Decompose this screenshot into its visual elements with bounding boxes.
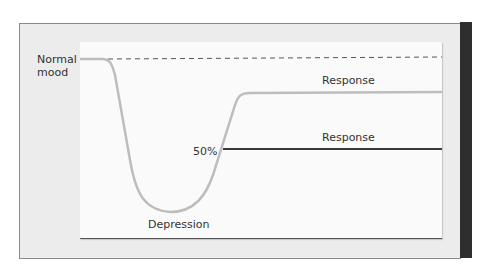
mood-diagram-svg (0, 0, 482, 277)
fifty-percent-label: 50% (193, 145, 217, 158)
normal-label: Normal (37, 53, 77, 66)
mood-label: mood (37, 66, 77, 79)
normal-mood-baseline (108, 57, 442, 59)
depression-label: Depression (148, 218, 210, 231)
response-lower-label: Response (322, 131, 375, 144)
response-upper-label: Response (322, 74, 375, 87)
normal-mood-label: Normal mood (37, 53, 77, 79)
mood-curve (80, 59, 442, 212)
